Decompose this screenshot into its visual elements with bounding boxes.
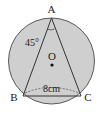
side-length-label: 8cm [43, 83, 60, 94]
center-label-o: O [48, 50, 56, 62]
vertex-label-c: C [84, 91, 91, 103]
vertex-label-b: B [10, 91, 17, 103]
angle-label: 45° [25, 37, 39, 48]
center-point [50, 63, 53, 66]
geometry-diagram: A B C O 45° 8cm [0, 0, 103, 117]
vertex-label-a: A [48, 3, 56, 15]
